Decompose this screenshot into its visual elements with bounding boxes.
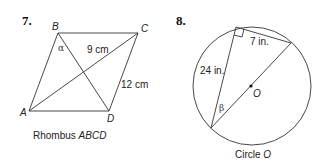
figures: 7. B C A D α 9 cm 12 cm Rhombus ABCD 8. … [0, 0, 326, 163]
long-leg-label: 24 in. [200, 65, 224, 76]
problem-7: 7. B C A D α 9 cm 12 cm Rhombus ABCD [19, 13, 149, 141]
short-leg-label: 7 in. [250, 36, 269, 47]
vertex-c-label: C [141, 23, 149, 34]
problem-number: 7. [22, 13, 32, 28]
figure-caption: Circle O [235, 149, 271, 160]
side-length-label: 12 cm [121, 79, 148, 90]
angle-alpha-label: α [58, 43, 64, 53]
center-o-label: O [253, 88, 261, 99]
vertex-b-label: B [52, 21, 59, 32]
problem-number: 8. [176, 13, 186, 28]
vertex-d-label: D [107, 113, 114, 124]
vertex-a-label: A [19, 107, 27, 118]
diagonal-length-label: 9 cm [87, 44, 109, 55]
figure-caption: Rhombus ABCD [33, 130, 106, 141]
problem-8: 8. 7 in. 24 in. β O Circle O [176, 13, 311, 160]
angle-beta-label: β [219, 103, 224, 113]
